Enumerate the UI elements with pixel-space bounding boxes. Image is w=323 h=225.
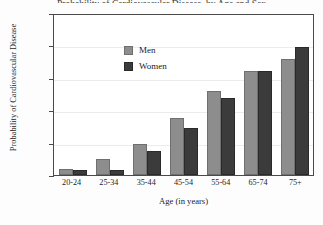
legend-item-men: Men [124, 45, 167, 55]
x-axis-ticks: 20-2425-3435-4445-5455-6465-7475+ [53, 178, 314, 187]
bar-women-55-64 [221, 98, 235, 175]
bar-group [91, 15, 128, 175]
bar-women-35-44 [147, 151, 161, 175]
bar-group [239, 15, 276, 175]
legend-item-women: Women [124, 61, 167, 71]
chart-figure: Probability of Cardiovascular Disease, b… [0, 0, 323, 225]
legend-label-men: Men [139, 45, 156, 55]
x-tick-label: 25-34 [90, 178, 127, 187]
legend-swatch-men-icon [124, 46, 133, 55]
x-tick-label: 35-44 [128, 178, 165, 187]
x-axis-label: Age (in years) [53, 196, 314, 206]
bar-women-65-74 [258, 71, 272, 175]
y-axis-label: Probability of Cardiovascular Disease [9, 8, 18, 168]
x-tick-label: 75+ [277, 178, 314, 187]
bar-women-25-34 [110, 170, 124, 175]
chart-title-clipped: Probability of Cardiovascular Disease, b… [0, 0, 323, 3]
bar-men-75+ [281, 59, 295, 175]
bar-women-75+ [295, 47, 309, 175]
chart-title: Probability of Cardiovascular Disease, b… [57, 0, 266, 3]
legend-label-women: Women [139, 61, 167, 71]
bar-men-55-64 [207, 91, 221, 175]
bar-group [276, 15, 313, 175]
bar-group [128, 15, 165, 175]
bar-groups [54, 15, 313, 175]
bar-men-35-44 [133, 144, 147, 175]
legend: Men Women [124, 45, 167, 77]
bar-men-20-24 [59, 169, 73, 175]
bar-group [165, 15, 202, 175]
bar-group [202, 15, 239, 175]
plot-area: Men Women [53, 14, 314, 176]
x-tick-label: 65-74 [239, 178, 276, 187]
y-tick-mark [49, 176, 54, 177]
bar-group [54, 15, 91, 175]
bar-men-65-74 [244, 71, 258, 175]
bar-men-45-54 [170, 118, 184, 175]
bar-men-25-34 [96, 159, 110, 175]
bar-women-45-54 [184, 128, 198, 175]
x-tick-label: 45-54 [165, 178, 202, 187]
legend-swatch-women-icon [124, 62, 133, 71]
x-tick-label: 55-64 [202, 178, 239, 187]
x-tick-label: 20-24 [53, 178, 90, 187]
bar-women-20-24 [73, 170, 87, 175]
